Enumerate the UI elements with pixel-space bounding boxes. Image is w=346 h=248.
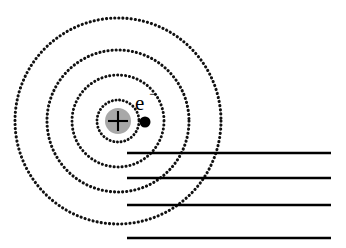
diagram-canvas: e − (0, 0, 346, 248)
nucleus-group (105, 108, 131, 134)
electron-label-symbol: e (135, 91, 144, 115)
energy-levels-group (127, 153, 331, 238)
electron-dot (140, 117, 151, 128)
electron-label-group: e − (135, 86, 157, 115)
bohr-atom-diagram: e − (0, 0, 346, 248)
electron-label-charge-superscript: − (149, 86, 157, 102)
